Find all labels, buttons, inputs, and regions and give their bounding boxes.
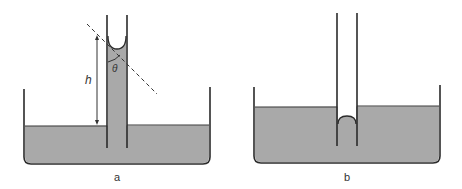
meniscus-concave: [108, 36, 126, 49]
panel-b: b: [254, 13, 440, 183]
height-label: h: [85, 73, 92, 87]
capillary-diagram: h θ a b: [0, 0, 462, 189]
panel-a: h θ a: [24, 15, 210, 183]
panel-b-caption: b: [344, 171, 350, 183]
beaker-a-liquid: [25, 125, 209, 163]
angle-label: θ: [112, 63, 118, 74]
panel-a-caption: a: [114, 171, 121, 183]
height-arrow-head-down: [95, 120, 99, 125]
